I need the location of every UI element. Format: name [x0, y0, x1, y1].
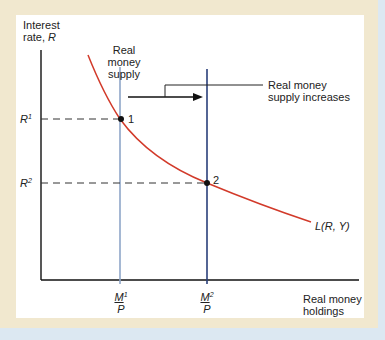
m2-over-p-tick-label: M2 P [197, 291, 217, 315]
money-demand-curve-label: L(R, Y) [315, 220, 350, 232]
equilibrium-point-1 [118, 116, 124, 122]
equilibrium-point-2 [204, 180, 210, 186]
x-axis-label: Real money holdings [303, 293, 362, 317]
supply-increases-label: Real money supply increases [268, 79, 350, 103]
callout-bracket [165, 85, 263, 97]
m1-over-p-tick-label: M1 P [111, 291, 131, 315]
r1-tick-label: R1 [20, 113, 32, 125]
money-market-diagram [0, 0, 385, 340]
point-1-label: 1 [128, 113, 134, 125]
real-money-supply-label: Real money supply [97, 44, 151, 80]
r2-tick-label: R2 [20, 177, 32, 189]
arrow-right-icon [193, 93, 203, 101]
y-axis-label: Interest rate, R [23, 19, 60, 43]
point-2-label: 2 [213, 174, 219, 186]
